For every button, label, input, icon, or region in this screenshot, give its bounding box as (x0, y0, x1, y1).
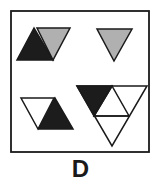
option-label: D (0, 155, 161, 183)
